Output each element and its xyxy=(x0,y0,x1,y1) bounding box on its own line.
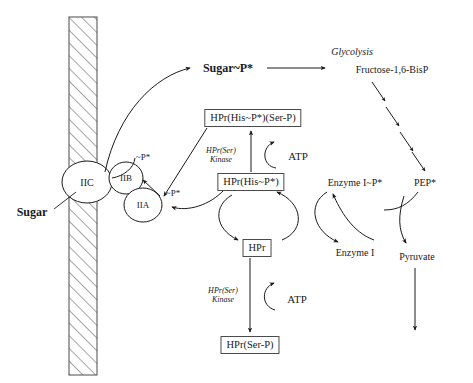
pts-pathway-diagram: IIC IIB IIA ~P* ~P* Sugar Sugar~P* Glyco… xyxy=(0,0,473,383)
label-hpr-ser-kinase-upper: HPr(Ser) Kinase xyxy=(206,146,236,164)
subunit-label-iic: IIC xyxy=(80,177,93,188)
label-pep: PEP* xyxy=(414,178,436,189)
label-sugar: Sugar xyxy=(17,206,48,219)
kinase-upper-line-1: HPr(Ser) xyxy=(206,146,236,155)
arrow-pep-to-pyruvate xyxy=(400,196,406,243)
phospho-tag-iia: ~P* xyxy=(166,188,180,198)
arrow-hpr-serp-to-iia xyxy=(164,128,207,196)
diagram-vector-layer xyxy=(0,0,473,383)
kinase-upper-line-2: Kinase xyxy=(206,155,236,164)
kinase-lower-line-2: Kinase xyxy=(208,295,238,304)
label-hpr-ser-kinase-lower: HPr(Ser) Kinase xyxy=(208,286,238,304)
label-atp-lower: ATP xyxy=(287,294,307,306)
label-enzyme-i-phosphate: Enzyme I~P* xyxy=(328,178,383,189)
box-hpr-his-p-ser-p: HPr(His~P*)(Ser-P) xyxy=(204,109,301,127)
label-pyruvate: Pyruvate xyxy=(399,252,435,263)
arrow-enzymei-to-enzymeip xyxy=(333,194,374,240)
kinase-lower-line-1: HPr(Ser) xyxy=(208,286,238,295)
box-hpr-ser-p: HPr(Ser-P) xyxy=(220,336,279,354)
label-atp-upper: ATP xyxy=(288,151,308,163)
glycolysis-cascade-arrows xyxy=(372,82,425,171)
label-sugar-phosphate: Sugar~P* xyxy=(203,62,253,75)
subunit-label-iia: IIA xyxy=(137,200,150,210)
box-hpr: HPr xyxy=(243,239,272,257)
arrow-hpr-to-hprhisp xyxy=(277,192,298,240)
label-enzyme-i: Enzyme I xyxy=(336,248,375,259)
label-fructose-bisphosphate: Fructose-1,6-BisP xyxy=(356,65,429,76)
phospho-tag-iib: ~P* xyxy=(136,152,150,162)
box-hpr-his-p: HPr(His~P*) xyxy=(217,173,284,191)
arrow-atp-upper xyxy=(265,142,276,168)
arrow-enzymeip-to-enzymei xyxy=(315,192,338,242)
subunit-label-iib: IIB xyxy=(120,173,132,183)
arrow-hprhisp-to-hpr xyxy=(219,195,238,240)
label-glycolysis: Glycolysis xyxy=(331,47,373,58)
arrow-atp-lower xyxy=(264,283,275,310)
